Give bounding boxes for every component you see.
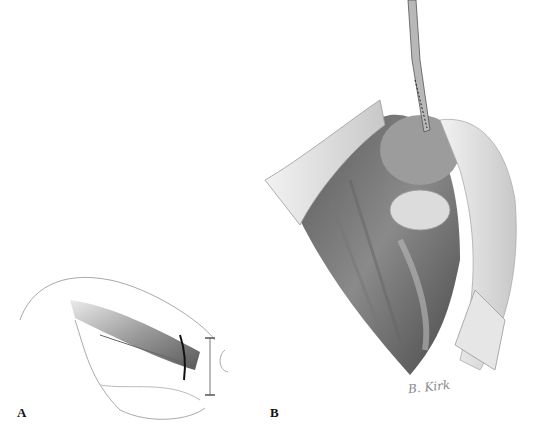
panel-a-illustration (0, 260, 260, 430)
panel-label-a: A (17, 405, 26, 421)
panel-b-illustration (260, 0, 560, 400)
hip-drawing (0, 260, 260, 430)
surgical-exposure-drawing (260, 0, 560, 400)
panel-label-b: B (270, 405, 279, 421)
